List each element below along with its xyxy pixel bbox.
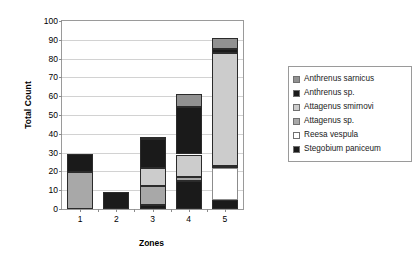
bar-segment	[176, 155, 202, 178]
y-tick-label: 40	[49, 130, 58, 139]
y-tick-label: 90	[49, 36, 58, 45]
x-tick-label: 3	[133, 215, 173, 224]
legend-swatch-icon	[293, 132, 300, 139]
chart-container: Total Count 0102030405060708090100 12345…	[0, 0, 417, 268]
bar-segment	[176, 107, 202, 154]
x-tick-label: 5	[205, 215, 245, 224]
bar-segment	[176, 177, 202, 181]
x-axis-separator	[207, 209, 208, 212]
legend-label: Anthrenus sp.	[304, 89, 355, 97]
legend-item-2[interactable]: Attagenus smirnovi	[293, 100, 407, 114]
bar-segment	[212, 38, 238, 49]
legend-item-0[interactable]: Anthrenus sarnicus	[293, 72, 407, 86]
bar-segment	[176, 94, 202, 107]
bar-segment	[140, 137, 166, 139]
legend-label: Anthrenus sarnicus	[304, 75, 374, 83]
x-tick-mark	[189, 209, 190, 212]
bar-segment	[212, 166, 238, 168]
x-tick-mark	[80, 209, 81, 212]
y-tick-label: 60	[49, 92, 58, 101]
bar-segment	[140, 139, 166, 168]
y-tick-label: 50	[49, 111, 58, 120]
legend-item-4[interactable]: Reesa vespula	[293, 128, 407, 142]
x-tick-label: 1	[60, 215, 100, 224]
x-tick-label: 4	[169, 215, 209, 224]
bar-segment	[176, 181, 202, 209]
y-tick-label: 10	[49, 186, 58, 195]
bar-3[interactable]	[140, 138, 166, 209]
x-axis-separator	[171, 209, 172, 212]
y-tick-label: 100	[44, 17, 58, 26]
x-tick-label: 2	[96, 215, 136, 224]
bar-segment	[212, 49, 238, 53]
legend-swatch-icon	[293, 146, 300, 153]
legend: Anthrenus sarnicusAnthrenus sp.Attagenus…	[288, 66, 412, 162]
x-axis-separator	[134, 209, 135, 212]
bar-segment	[67, 154, 93, 172]
bar-segment	[67, 172, 93, 209]
plot-area: 0102030405060708090100 12345	[61, 20, 244, 210]
y-tick-label: 70	[49, 73, 58, 82]
bar-segment	[140, 186, 166, 205]
x-axis-separator	[98, 209, 99, 212]
bar-segment	[212, 200, 238, 209]
y-tick-label: 80	[49, 54, 58, 63]
legend-item-1[interactable]: Anthrenus sp.	[293, 86, 407, 100]
legend-label: Attagenus smirnovi	[304, 103, 374, 111]
bar-segment	[212, 53, 238, 166]
legend-item-5[interactable]: Stegobium paniceum	[293, 142, 407, 156]
x-tick-mark	[225, 209, 226, 212]
bar-4[interactable]	[176, 94, 202, 209]
x-axis-title: Zones	[61, 238, 242, 248]
bar-5[interactable]	[212, 38, 238, 209]
y-tick-label: 20	[49, 167, 58, 176]
x-tick-mark	[116, 209, 117, 212]
y-axis-title: Total Count	[23, 55, 33, 155]
legend-item-3[interactable]: Attagenus sp.	[293, 114, 407, 128]
y-tick-label: 30	[49, 148, 58, 157]
bar-2[interactable]	[103, 192, 129, 209]
legend-swatch-icon	[293, 76, 300, 83]
bar-1[interactable]	[67, 154, 93, 209]
legend-swatch-icon	[293, 118, 300, 125]
y-tick-mark	[59, 209, 62, 210]
legend-swatch-icon	[293, 90, 300, 97]
bar-segment	[103, 192, 129, 209]
bar-segment	[212, 168, 238, 200]
y-tick-label: 0	[53, 205, 58, 214]
legend-label: Reesa vespula	[304, 131, 358, 139]
bar-segment	[140, 168, 166, 187]
legend-label: Attagenus sp.	[304, 117, 354, 125]
bar-group	[62, 21, 243, 209]
legend-label: Stegobium paniceum	[304, 145, 381, 153]
x-tick-mark	[153, 209, 154, 212]
legend-swatch-icon	[293, 104, 300, 111]
